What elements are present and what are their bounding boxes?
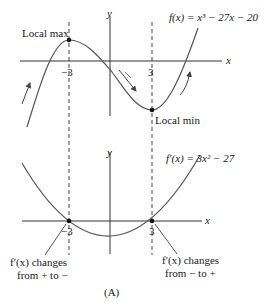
left-note-line1: f′(x) changes (10, 256, 67, 269)
cubic-curve (27, 28, 198, 127)
bottom-y-axis-label: y (106, 146, 112, 158)
top-y-axis-label: y (106, 7, 112, 19)
bottom-tick-pos3: 3 (149, 225, 155, 237)
derivative-function-label: f′(x) = 3x² − 27 (166, 152, 235, 165)
local-min-point (150, 108, 155, 113)
right-note-line1: f′(x) changes (162, 254, 219, 267)
top-tick-pos3: 3 (148, 66, 154, 78)
zero-point-neg3 (67, 219, 72, 224)
figure-caption: (A) (104, 286, 120, 299)
top-graph: y x −3 3 Local max Local min f(x) = x³ −… (20, 7, 259, 127)
parabola-curve (22, 155, 200, 236)
calculus-diagram: y x −3 3 Local max Local min f(x) = x³ −… (0, 0, 260, 302)
bottom-graph: y x −3 3 f′(x) = 3x² − 27 f′(x) changes … (10, 146, 235, 281)
cubic-function-label: f(x) = x³ − 27x − 20 (169, 11, 259, 24)
increasing-arrow-right (180, 72, 190, 95)
left-note-line2: from + to − (17, 269, 68, 281)
local-max-label: Local max (22, 27, 69, 39)
top-x-axis-label: x (225, 54, 231, 66)
right-note-line2: from − to + (165, 267, 216, 279)
leader-line-right (155, 224, 177, 254)
bottom-x-axis-label: x (204, 214, 210, 226)
arrow-tick (125, 72, 131, 78)
decreasing-arrow-middle (119, 70, 136, 91)
increasing-arrow-left (22, 83, 30, 104)
bottom-tick-neg3: −3 (61, 225, 73, 237)
local-min-label: Local min (155, 114, 200, 126)
top-tick-neg3: −3 (61, 66, 73, 78)
zero-point-pos3 (150, 219, 155, 224)
